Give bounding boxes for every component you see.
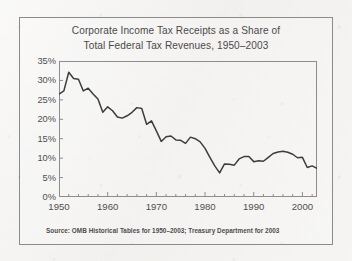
chart-title-line-2: Total Federal Tax Revenues, 1950–2003 bbox=[19, 39, 333, 54]
x-tick-label-1960: 1960 bbox=[97, 201, 118, 212]
x-tick-label-1990: 1990 bbox=[243, 201, 264, 212]
x-axis-tick-labels: 195019601970198019902000 bbox=[59, 201, 317, 215]
x-tick-label-1970: 1970 bbox=[146, 201, 167, 212]
chart-title-line-1: Corporate Income Tax Receipts as a Share… bbox=[19, 24, 333, 39]
x-tick-label-1950: 1950 bbox=[48, 201, 69, 212]
data-series-line bbox=[59, 72, 317, 173]
y-axis-ticks bbox=[59, 62, 63, 197]
chart-line-svg bbox=[59, 61, 317, 197]
y-tick-label-30pct: 30% bbox=[37, 75, 56, 85]
chart-title: Corporate Income Tax Receipts as a Share… bbox=[19, 24, 333, 53]
y-tick-label-15pct: 15% bbox=[37, 134, 56, 144]
y-tick-label-5pct: 5% bbox=[43, 173, 56, 183]
x-tick-label-1980: 1980 bbox=[194, 201, 215, 212]
y-tick-label-20pct: 20% bbox=[37, 114, 56, 124]
x-axis-ticks bbox=[60, 192, 313, 197]
y-tick-label-25pct: 25% bbox=[37, 95, 56, 105]
x-tick-label-2000: 2000 bbox=[292, 201, 313, 212]
y-tick-label-35pct: 35% bbox=[37, 56, 56, 66]
plot-area bbox=[59, 61, 317, 197]
source-note: Source: OMB Historical Tables for 1950–2… bbox=[46, 227, 279, 234]
y-tick-label-10pct: 10% bbox=[37, 153, 56, 163]
y-axis-tick-labels: 35%30%25%20%15%10%5%0% bbox=[28, 61, 56, 197]
